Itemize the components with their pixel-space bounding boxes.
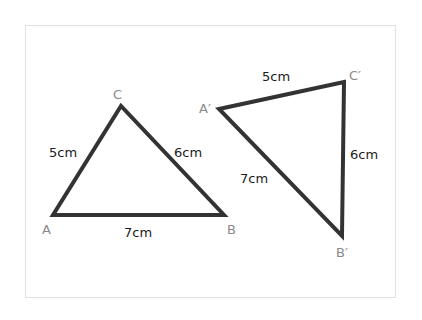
side-label-c-prime-b-prime: 6cm	[350, 147, 378, 162]
triangle-a-prime-b-prime-c-prime-shape	[219, 82, 344, 236]
vertex-label-b: B	[227, 222, 236, 237]
vertex-label-a-prime: A′	[199, 101, 211, 116]
triangle-abc-shape	[53, 106, 224, 215]
congruent-triangles-diagram: C A B 5cm 6cm 7cm A′ C′ B′ 5cm 6cm 7cm	[0, 0, 422, 320]
side-label-ac: 5cm	[49, 145, 77, 160]
vertex-label-c-prime: C′	[349, 68, 361, 83]
side-label-cb: 6cm	[174, 145, 202, 160]
vertex-label-c: C	[113, 87, 122, 102]
triangle-a-prime-b-prime-c-prime: A′ C′ B′ 5cm 6cm 7cm	[199, 68, 378, 260]
side-label-ab: 7cm	[124, 225, 152, 240]
vertex-label-a: A	[42, 222, 51, 237]
side-label-a-prime-b-prime: 7cm	[240, 171, 268, 186]
side-label-a-prime-c-prime: 5cm	[262, 69, 290, 84]
vertex-label-b-prime: B′	[336, 245, 348, 260]
